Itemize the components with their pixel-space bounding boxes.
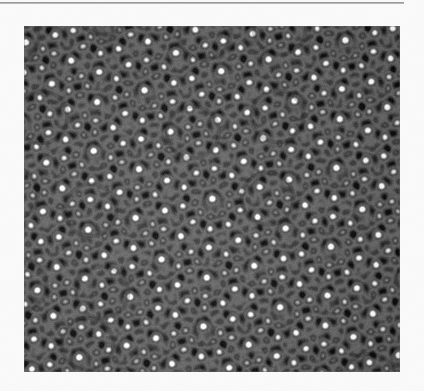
horizontal-rule <box>0 2 404 4</box>
figure-block <box>24 26 400 372</box>
quasicrystal-micrograph-image <box>24 26 400 372</box>
scanned-page <box>0 0 424 391</box>
